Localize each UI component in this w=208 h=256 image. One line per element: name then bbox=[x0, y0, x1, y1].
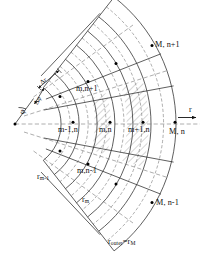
node-m-minus-1-n bbox=[72, 121, 75, 124]
label-m-minus-1-n: m-1,n bbox=[58, 126, 78, 134]
node-upper-inner bbox=[59, 95, 62, 98]
node-M-n-minus-1 bbox=[151, 201, 154, 204]
node-apex bbox=[14, 123, 17, 126]
label-m-n-plus-1: m,n+1 bbox=[76, 85, 98, 93]
node-M-n-plus-1 bbox=[151, 44, 154, 47]
r-outer-sub: outer bbox=[111, 240, 123, 246]
label-r-m: rm bbox=[82, 196, 89, 204]
label-M-n: M, n bbox=[169, 128, 185, 136]
node-m-n-plus-1 bbox=[87, 80, 90, 83]
label-M-n-plus-1: M, n+1 bbox=[155, 41, 180, 49]
hatched-cells bbox=[92, 81, 149, 167]
figure-canvas: M, n+1 m,n+1 m-1,n m,n m+1,n M, n m,n-1 … bbox=[0, 0, 208, 256]
label-r-outer: router=rM bbox=[108, 238, 135, 246]
angle-center-lines-dashed bbox=[15, 25, 200, 223]
label-r-m-minus-1: rm-1 bbox=[37, 173, 49, 181]
node-m-plus-1-n bbox=[142, 121, 145, 124]
node-M-n bbox=[174, 121, 177, 124]
r-m-minus-1-sub: m-1 bbox=[40, 175, 49, 181]
label-m-n-minus-1: m,n-1 bbox=[77, 167, 97, 175]
node-upper-mid bbox=[115, 62, 118, 65]
r-m-sub: m bbox=[85, 198, 89, 204]
r-outer-tail-sub: M bbox=[130, 240, 135, 246]
label-M-n-minus-1: M, n-1 bbox=[156, 199, 179, 207]
label-r-axis: r bbox=[189, 106, 192, 114]
label-m-n: m,n bbox=[99, 126, 112, 134]
node-m-n bbox=[109, 121, 112, 124]
node-lower-mid bbox=[115, 183, 118, 186]
node-lower-inner bbox=[59, 150, 62, 153]
label-m-plus-1-n: m+1,n bbox=[128, 126, 150, 134]
